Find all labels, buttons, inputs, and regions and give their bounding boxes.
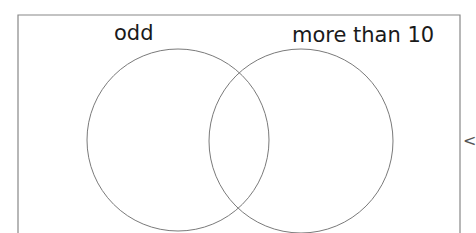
set-label-right: more than 10 (292, 25, 434, 46)
set-label-left: odd (114, 23, 154, 44)
chevron-left-icon[interactable]: < (463, 131, 476, 150)
diagram-frame (18, 15, 460, 233)
venn-circle-left (87, 49, 269, 231)
venn-circle-right (209, 49, 393, 233)
